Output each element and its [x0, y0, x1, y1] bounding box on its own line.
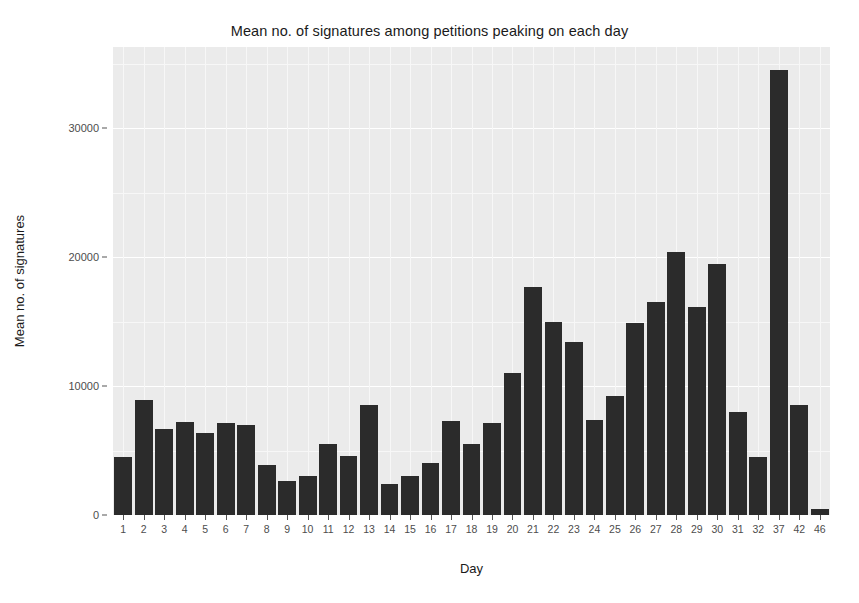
x-tick-label: 22 — [548, 523, 560, 535]
x-tick-mark — [164, 515, 165, 520]
x-tick-label: 11 — [323, 523, 334, 535]
plot-panel — [113, 47, 830, 515]
y-axis-title: Mean no. of signatures — [12, 47, 34, 515]
x-tick-label: 31 — [732, 523, 744, 535]
bar-chart: Mean no. of signatures among petitions p… — [0, 0, 859, 603]
x-tick-label: 37 — [773, 523, 785, 535]
y-tick-mark — [102, 257, 107, 258]
x-tick-label: 23 — [568, 523, 580, 535]
y-tick-label: 0 — [93, 509, 99, 521]
x-tick-label: 17 — [445, 523, 457, 535]
bar — [647, 302, 665, 515]
x-tick-mark — [594, 515, 595, 520]
x-tick-mark — [205, 515, 206, 520]
bar — [463, 444, 481, 515]
x-tick-mark — [390, 515, 391, 520]
x-tick-mark — [328, 515, 329, 520]
x-tick-label: 9 — [284, 523, 290, 535]
bar — [606, 396, 624, 515]
bar — [196, 433, 214, 516]
x-tick-label: 24 — [589, 523, 601, 535]
bar — [524, 287, 542, 515]
bar — [442, 421, 460, 515]
x-tick-mark — [799, 515, 800, 520]
bar — [340, 456, 358, 515]
x-tick-label: 3 — [161, 523, 167, 535]
gridline-vertical — [349, 47, 350, 515]
x-tick-label: 4 — [182, 523, 188, 535]
x-tick-mark — [553, 515, 554, 520]
x-tick-label: 42 — [793, 523, 805, 535]
bar — [790, 405, 808, 515]
bar — [217, 423, 235, 515]
bar — [237, 425, 255, 515]
x-tick-mark — [533, 515, 534, 520]
bar — [626, 323, 644, 515]
bar — [729, 412, 747, 515]
bar — [176, 422, 194, 515]
gridline-vertical — [431, 47, 432, 515]
x-tick-mark — [226, 515, 227, 520]
x-tick-label: 18 — [466, 523, 478, 535]
x-tick-mark — [615, 515, 616, 520]
bar — [155, 429, 173, 515]
x-tick-label: 13 — [363, 523, 375, 535]
gridline-vertical — [390, 47, 391, 515]
x-tick-mark — [451, 515, 452, 520]
x-tick-label: 32 — [752, 523, 764, 535]
x-tick-label: 25 — [609, 523, 621, 535]
x-tick-mark — [472, 515, 473, 520]
x-tick-label: 19 — [486, 523, 498, 535]
x-tick-mark — [574, 515, 575, 520]
x-tick-label: 46 — [814, 523, 826, 535]
y-tick-mark — [102, 386, 107, 387]
x-tick-mark — [267, 515, 268, 520]
gridline-vertical — [820, 47, 821, 515]
x-tick-mark — [697, 515, 698, 520]
gridline-vertical — [267, 47, 268, 515]
bar — [299, 476, 317, 515]
bar — [114, 457, 132, 515]
gridline-vertical — [410, 47, 411, 515]
x-tick-mark — [123, 515, 124, 520]
x-tick-label: 7 — [243, 523, 249, 535]
x-tick-label: 28 — [671, 523, 683, 535]
x-tick-label: 27 — [650, 523, 662, 535]
bar — [770, 70, 788, 515]
x-tick-mark — [308, 515, 309, 520]
x-tick-mark — [287, 515, 288, 520]
y-tick-label: 10000 — [68, 380, 99, 392]
gridline-vertical — [758, 47, 759, 515]
x-tick-label: 30 — [711, 523, 723, 535]
x-tick-label: 1 — [120, 523, 126, 535]
bar — [565, 342, 583, 515]
bar — [749, 457, 767, 515]
y-tick-mark — [102, 515, 107, 516]
bar — [545, 322, 563, 515]
x-tick-mark — [512, 515, 513, 520]
bar — [401, 476, 419, 515]
x-tick-label: 20 — [507, 523, 519, 535]
x-axis-title: Day — [113, 561, 830, 576]
gridline-vertical — [308, 47, 309, 515]
x-tick-label: 6 — [223, 523, 229, 535]
y-tick-label: 20000 — [68, 251, 99, 263]
x-tick-label: 29 — [691, 523, 703, 535]
bar — [319, 444, 337, 515]
bar — [278, 481, 296, 515]
y-tick-mark — [102, 128, 107, 129]
bar — [381, 484, 399, 515]
bar — [667, 252, 685, 515]
chart-title: Mean no. of signatures among petitions p… — [0, 23, 859, 39]
x-tick-mark — [758, 515, 759, 520]
x-tick-label: 21 — [527, 523, 539, 535]
x-tick-label: 5 — [202, 523, 208, 535]
x-tick-mark — [369, 515, 370, 520]
x-tick-label: 26 — [630, 523, 642, 535]
x-tick-label: 15 — [404, 523, 416, 535]
x-tick-mark — [656, 515, 657, 520]
x-tick-mark — [492, 515, 493, 520]
bar — [504, 373, 522, 515]
x-tick-mark — [246, 515, 247, 520]
x-tick-label: 8 — [264, 523, 270, 535]
